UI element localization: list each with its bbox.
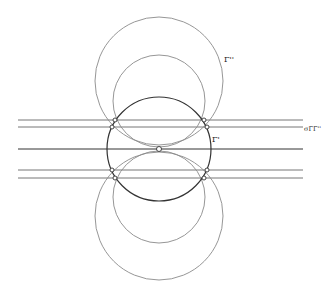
point [110,125,114,129]
circle-upper-medium [113,55,205,147]
point [202,118,206,122]
point [202,176,206,180]
point [110,168,114,172]
point [205,125,209,129]
circle-gamma-double-prime [95,17,223,145]
point [113,176,117,180]
circle-lower-large [95,152,223,280]
label-sigma: σΓΓ'' [304,125,321,133]
center-point [157,147,162,152]
point [205,168,209,172]
label-gamma-prime: Γ' [212,135,220,144]
diagram-canvas: Γ'' Γ' σΓΓ'' [0,0,336,295]
label-gamma-double-prime: Γ'' [224,55,234,64]
point [113,118,117,122]
circle-lower-medium [113,151,205,243]
